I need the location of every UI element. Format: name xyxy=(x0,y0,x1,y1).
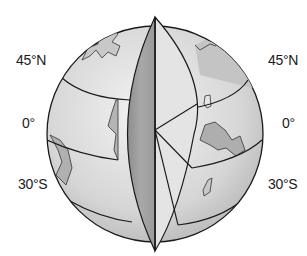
label-45n-right: 45°N xyxy=(268,52,298,68)
label-45n-left: 45°N xyxy=(16,52,46,68)
label-30s-right: 30°S xyxy=(268,176,297,192)
label-30s-left: 30°S xyxy=(18,176,47,192)
label-0-right: 0° xyxy=(282,115,295,131)
land-europe xyxy=(82,28,120,60)
label-0-left: 0° xyxy=(22,115,35,131)
globe-diagram xyxy=(0,0,307,256)
